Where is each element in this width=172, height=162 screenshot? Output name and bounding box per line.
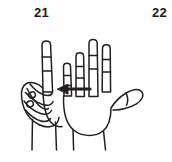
left-hand-wrist-right	[56, 122, 57, 150]
hands-illustration	[0, 0, 172, 162]
left-pointing-arrow	[58, 84, 91, 94]
left-hand-fist-index-up	[21, 41, 62, 150]
right-hand-index-finger	[102, 45, 110, 92]
right-hand-wrist-left	[73, 130, 74, 151]
left-hand-index-finger	[42, 41, 53, 92]
right-hand-wrist-right	[104, 131, 106, 151]
right-hand-thumb-crease	[126, 93, 128, 105]
left-hand-wrist-left	[32, 120, 33, 151]
left-hand-thumb-knuckle-lower	[26, 100, 35, 108]
arrow-head	[58, 84, 69, 94]
right-hand-open-palm	[64, 40, 143, 150]
figure-canvas: 21 22	[0, 0, 172, 162]
